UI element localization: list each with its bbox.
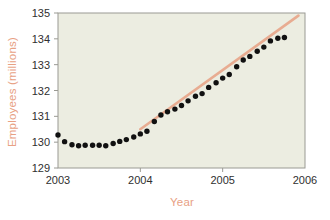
data-point — [247, 54, 252, 59]
data-point — [179, 103, 184, 108]
y-tick-label: 134 — [32, 33, 50, 45]
data-point — [90, 143, 95, 148]
data-point — [138, 131, 143, 136]
data-point — [234, 64, 239, 69]
data-point — [76, 143, 81, 148]
y-tick-label: 130 — [32, 136, 50, 148]
data-point — [172, 106, 177, 111]
data-point — [82, 143, 87, 148]
data-point — [131, 134, 136, 139]
data-point — [241, 57, 246, 62]
x-tick-label: 2004 — [128, 174, 152, 186]
y-tick-label: 132 — [32, 85, 50, 97]
data-point — [158, 112, 163, 117]
data-point — [165, 109, 170, 114]
data-point — [185, 98, 190, 103]
x-axis-title: Year — [170, 196, 194, 208]
scatter-chart: 129130131132133134135 2003200420052006 E… — [0, 0, 330, 220]
data-point — [55, 132, 60, 137]
data-point — [261, 44, 266, 49]
data-point — [199, 91, 204, 96]
data-point — [275, 36, 280, 41]
data-point — [255, 49, 260, 54]
y-tick-label: 131 — [32, 110, 50, 122]
y-tick-label: 133 — [32, 59, 50, 71]
data-point — [213, 80, 218, 85]
data-point — [69, 142, 74, 147]
data-point — [103, 143, 108, 148]
data-point — [144, 129, 149, 134]
data-point — [124, 137, 129, 142]
data-point — [206, 85, 211, 90]
y-tick-label: 129 — [32, 162, 50, 174]
x-tick-label: 2005 — [210, 174, 234, 186]
x-tick-label: 2003 — [46, 174, 70, 186]
data-point — [193, 93, 198, 98]
y-axis-title: Employees (millions) — [6, 37, 18, 147]
data-point — [96, 143, 101, 148]
data-point — [282, 35, 287, 40]
data-point — [268, 38, 273, 43]
chart-figure: 129130131132133134135 2003200420052006 E… — [0, 0, 330, 220]
data-point — [227, 72, 232, 77]
x-tick-label: 2006 — [293, 174, 317, 186]
data-point — [110, 141, 115, 146]
data-point — [220, 75, 225, 80]
data-point — [62, 139, 67, 144]
y-tick-label: 135 — [32, 7, 50, 19]
data-point — [117, 139, 122, 144]
data-point — [152, 119, 157, 124]
